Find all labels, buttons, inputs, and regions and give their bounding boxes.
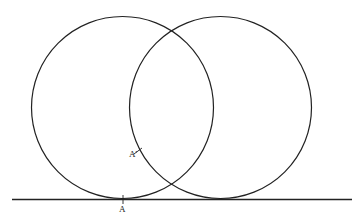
left-circle: [32, 17, 214, 199]
geometry-diagram: [0, 0, 363, 219]
point-a-prime-label: A': [129, 150, 137, 159]
right-circle: [130, 17, 312, 199]
point-a-label: A: [119, 205, 126, 214]
